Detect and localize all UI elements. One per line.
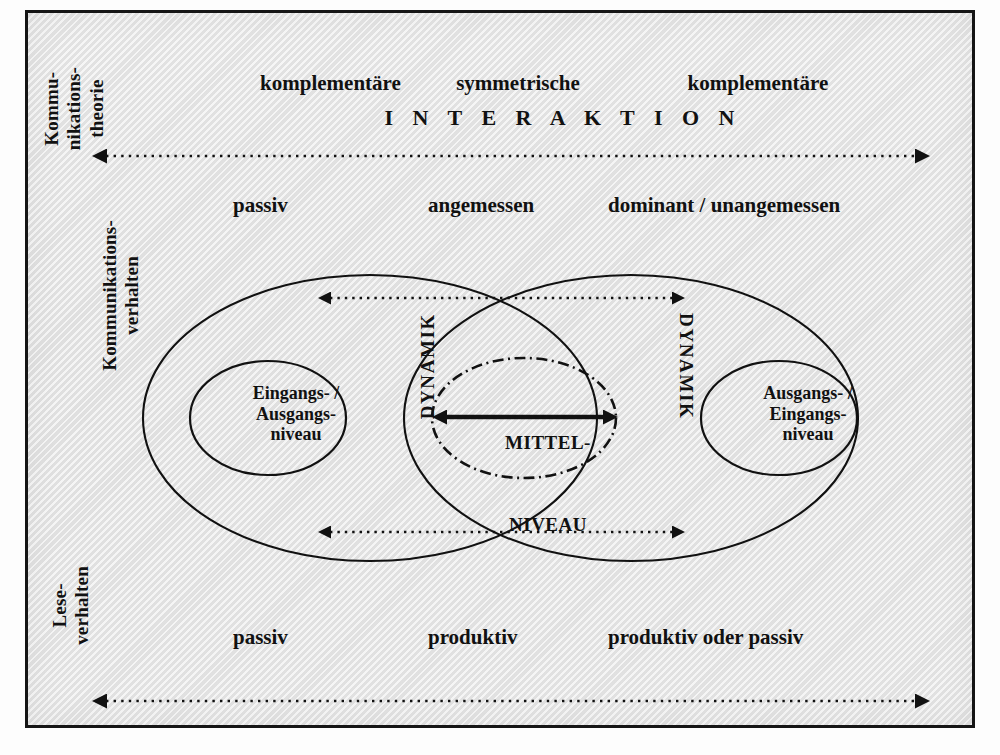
left-ellipse-label: Eingangs- / Ausgangs- niveau <box>216 383 376 445</box>
mittelniveau-line2: NIVEAU <box>468 514 628 536</box>
center-ellipse-label: MITTEL- NIVEAU <box>468 388 628 580</box>
leseverhalten-right: produktiv oder passiv <box>608 625 908 650</box>
kommunikationsverhalten-right: dominant / unangemessen <box>608 193 908 218</box>
interaktion-banner: I N T E R A K T I O N <box>233 105 893 130</box>
kommunikationsverhalten-center: angemessen <box>428 193 608 218</box>
leseverhalten-left: passiv <box>233 625 428 650</box>
interaktionsart-right: komplementäre <box>608 71 908 96</box>
leseverhalten-row: passiv produktiv produktiv oder passiv <box>233 625 963 650</box>
label-leseverhalten: Lese- verhalten <box>49 545 94 665</box>
interaktionsart-center: symmetrische <box>428 71 608 96</box>
interaktionsart-left: komplementäre <box>233 71 428 96</box>
label-dynamik-right: DYNAMIK <box>675 296 697 436</box>
label-kommunikationstheorie: Kommu- nikations- theorie <box>41 34 108 184</box>
diagram-frame: Kommu- nikations- theorie Kommunikations… <box>25 10 975 728</box>
label-dynamik-left: DYNAMIK <box>417 296 439 436</box>
interaktionsart-row: komplementäre symmetrische komplementäre <box>233 71 933 96</box>
right-ellipse-label: Ausgangs- / Eingangs- niveau <box>728 383 888 445</box>
leseverhalten-center: produktiv <box>428 625 608 650</box>
kommunikationsverhalten-left: passiv <box>233 193 428 218</box>
mittelniveau-line1: MITTEL- <box>468 432 628 454</box>
label-kommunikationsverhalten: Kommunikations- verhalten <box>99 180 144 410</box>
diagram-canvas: Kommu- nikations- theorie Kommunikations… <box>0 0 1000 755</box>
kommunikationsverhalten-row: passiv angemessen dominant / unangemesse… <box>233 193 963 218</box>
